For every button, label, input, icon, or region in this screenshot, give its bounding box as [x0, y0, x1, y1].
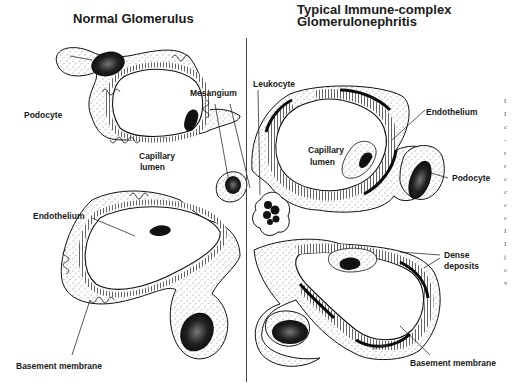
edge-char: r: [504, 147, 518, 160]
edge-char: c: [504, 212, 518, 225]
label-capillary-lumen-left-2: lumen: [140, 162, 165, 172]
edge-char: v: [504, 277, 518, 290]
edge-char: I: [504, 238, 518, 251]
edge-char: c: [504, 173, 518, 186]
cropped-edge-text: I I c - r r c c c c I I j c v: [504, 95, 518, 290]
right-panel-title-line2: Glomerulonephritis: [297, 15, 417, 28]
label-basement-membrane-right: Basement membrane: [410, 358, 496, 368]
edge-char: r: [504, 160, 518, 173]
panel-divider: [246, 38, 247, 382]
label-podocyte-right: Podocyte: [452, 173, 490, 183]
edge-char: c: [504, 264, 518, 277]
label-dense-deposits-2: deposits: [444, 261, 479, 271]
edge-char: c: [504, 186, 518, 199]
label-endothelium-left: Endothelium: [33, 211, 84, 221]
label-basement-membrane-left: Basement membrane: [16, 361, 102, 371]
label-endothelium-right: Endothelium: [426, 107, 477, 117]
edge-char: -: [504, 134, 518, 147]
edge-char: I: [504, 225, 518, 238]
immune-complex-glomerulonephritis-drawing: signature: [252, 86, 448, 366]
label-leukocyte: Leukocyte: [253, 79, 295, 89]
left-panel-title: Normal Glomerulus: [73, 12, 194, 25]
glomerulus-diagram-artwork: signature: [0, 0, 519, 389]
label-podocyte-left: Podocyte: [24, 110, 62, 120]
label-capillary-lumen-right-2: lumen: [310, 157, 335, 167]
edge-char: I: [504, 108, 518, 121]
edge-char: I: [504, 95, 518, 108]
edge-char: j: [504, 251, 518, 264]
label-dense-deposits-1: Dense: [444, 250, 470, 260]
label-capillary-lumen-right-1: Capillary: [308, 145, 344, 155]
edge-char: c: [504, 199, 518, 212]
label-mesangium: Mesangium: [190, 88, 237, 98]
label-capillary-lumen-left-1: Capillary: [139, 151, 175, 161]
edge-char: c: [504, 121, 518, 134]
